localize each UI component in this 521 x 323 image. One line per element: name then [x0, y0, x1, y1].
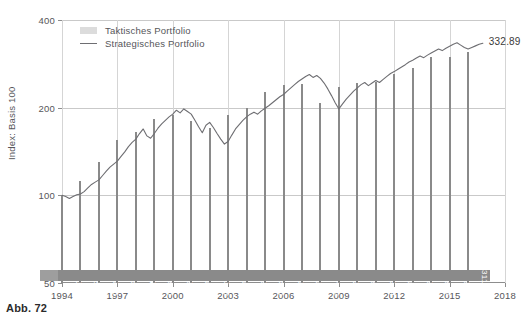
x-axis-tick-label: 1994 [51, 290, 73, 301]
y-axis-tick-mark [58, 108, 62, 109]
bar-value-label: 311.54 [446, 270, 490, 281]
legend-label: Taktisches Portfolio [105, 25, 191, 36]
y-axis-title: Index: Basis 100 [6, 87, 17, 160]
legend-item-strategisches-portfolio: Strategisches Portfolio [80, 37, 205, 50]
x-axis-tick-mark [62, 283, 63, 287]
y-axis-tick-mark [58, 20, 62, 21]
chart-figure: Index: Basis 100 50100200400 19941997200… [0, 0, 521, 323]
bar [283, 85, 285, 283]
legend-label: Strategisches Portfolio [105, 38, 205, 49]
x-axis-tick-label: 2018 [494, 290, 516, 301]
gridline-vertical [505, 20, 506, 283]
bar [319, 103, 321, 283]
bar [246, 108, 248, 283]
bar [153, 119, 155, 283]
bar [356, 83, 358, 283]
bar [172, 115, 174, 283]
bar [338, 87, 340, 283]
bar [449, 57, 451, 283]
figure-caption: Abb. 72 [6, 302, 47, 314]
bar [467, 52, 469, 283]
legend-swatch-icon [80, 27, 97, 34]
x-axis-tick-mark [505, 283, 506, 287]
bar [116, 140, 118, 283]
bar [393, 74, 395, 283]
bar [190, 121, 192, 283]
bar [135, 132, 137, 283]
legend-item-taktisches-portfolio: Taktisches Portfolio [80, 24, 205, 37]
bar [412, 68, 414, 283]
legend: Taktisches Portfolio Strategisches Portf… [80, 24, 205, 50]
bar [430, 57, 432, 283]
bar [264, 92, 266, 283]
plot-area: 50100200400 1994199720002003200620092012… [62, 20, 505, 283]
bar [79, 181, 81, 283]
bar [301, 84, 303, 283]
bar [227, 115, 229, 283]
bar [209, 128, 211, 283]
legend-line-icon [80, 43, 97, 44]
end-value-annotation: 332.89 [489, 36, 521, 47]
bar [375, 82, 377, 283]
bar [98, 162, 100, 283]
